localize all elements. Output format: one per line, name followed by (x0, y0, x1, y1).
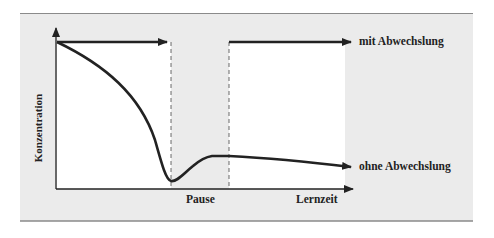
label-ohne-abwechslung: ohne Abwechslung (359, 160, 451, 172)
plot-area-before-pause (57, 42, 171, 189)
x-axis-label: Lernzeit (296, 193, 338, 205)
label-mit-abwechslung: mit Abwechslung (359, 35, 444, 47)
concentration-diagram: Konzentration mit Abwechslung ohne Abwec… (0, 0, 494, 238)
plot-area-after-pause (229, 42, 345, 189)
y-axis-label: Konzentration (32, 94, 44, 162)
pause-label: Pause (186, 193, 215, 205)
